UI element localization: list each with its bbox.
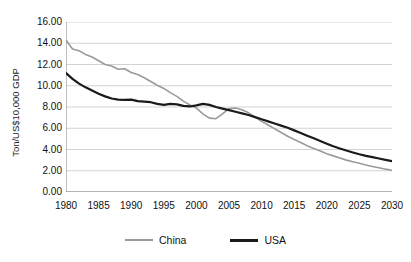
- legend-item-china[interactable]: China: [125, 234, 186, 246]
- chart-legend: China USA: [0, 234, 411, 246]
- legend-label-china: China: [159, 234, 186, 246]
- legend-line-icon-usa: [230, 239, 258, 242]
- series-line-china: [66, 40, 392, 170]
- x-tick-label: 2030: [372, 200, 411, 211]
- legend-label-usa: USA: [264, 234, 286, 246]
- chart-container: Ton/US$10,000 GDP 0.002.004.006.008.0010…: [0, 0, 411, 262]
- legend-line-icon-china: [125, 239, 153, 241]
- series-line-usa: [66, 73, 392, 161]
- legend-item-usa[interactable]: USA: [230, 234, 286, 246]
- plot-area: [66, 22, 392, 192]
